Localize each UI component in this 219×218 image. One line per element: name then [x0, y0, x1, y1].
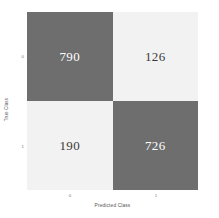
- matrix-cell-value: 190: [60, 139, 80, 152]
- matrix-cell-value: 790: [60, 50, 80, 63]
- x-axis-tick-1: 1: [148, 193, 164, 198]
- heatmap-plot-area: 790 126 190 726: [27, 12, 198, 190]
- matrix-cell-true1-pred1: 726: [113, 101, 199, 190]
- matrix-cell-value: 726: [145, 139, 165, 152]
- matrix-cell-true1-pred0: 190: [27, 101, 113, 190]
- x-axis-tick-0: 0: [62, 193, 78, 198]
- y-axis-label-text: True Class: [5, 97, 10, 121]
- y-axis-label: True Class: [0, 0, 14, 218]
- matrix-cell-true0-pred0: 790: [27, 12, 113, 101]
- x-axis-label: Predicted Class: [27, 203, 198, 208]
- y-axis-tick-0: 0: [12, 54, 24, 59]
- y-axis-tick-1: 1: [12, 144, 24, 149]
- confusion-matrix-figure: True Class 0 1 790 126 190 726 0 1 Predi…: [0, 0, 219, 218]
- matrix-cell-value: 126: [145, 50, 165, 63]
- matrix-cell-true0-pred1: 126: [113, 12, 199, 101]
